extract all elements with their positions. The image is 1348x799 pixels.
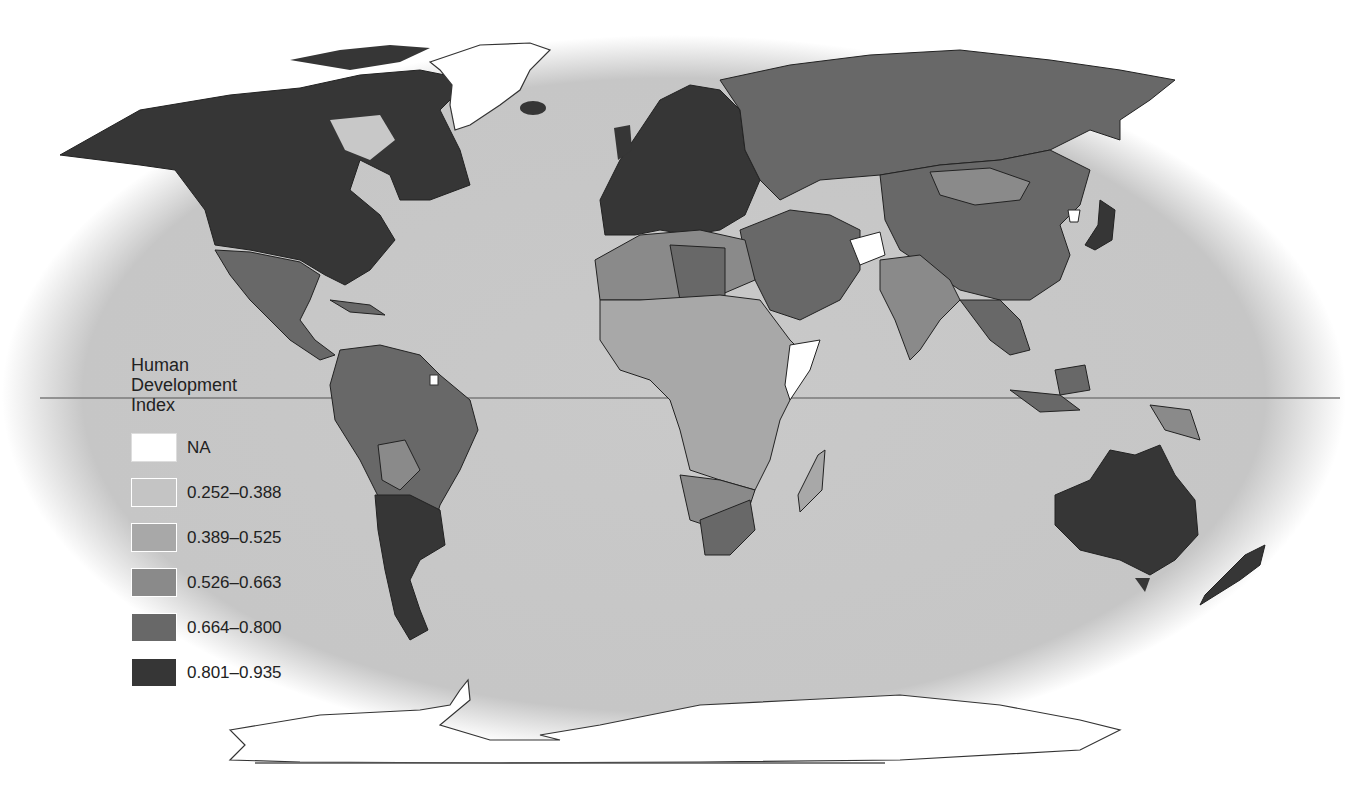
region-french-guiana[interactable]	[430, 375, 438, 385]
legend-swatch	[131, 568, 177, 597]
legend-label: 0.664–0.800	[187, 618, 282, 638]
legend-title: Human Development Index	[131, 355, 331, 415]
region-libya[interactable]	[670, 245, 725, 300]
legend-label: 0.389–0.525	[187, 528, 282, 548]
legend-item-1: 0.252–0.388	[131, 478, 331, 507]
legend-label: NA	[187, 438, 211, 458]
legend-item-4: 0.664–0.800	[131, 613, 331, 642]
legend-swatch	[131, 613, 177, 642]
legend-item-3: 0.526–0.663	[131, 568, 331, 597]
legend-swatch	[131, 433, 177, 462]
legend-title-line: Index	[131, 395, 331, 415]
legend-label: 0.526–0.663	[187, 573, 282, 593]
legend-swatch	[131, 658, 177, 687]
legend-item-2: 0.389–0.525	[131, 523, 331, 552]
legend-swatch	[131, 478, 177, 507]
legend-label: 0.252–0.388	[187, 483, 282, 503]
legend-swatch	[131, 523, 177, 552]
legend-item-na: NA	[131, 433, 331, 462]
legend-title-line: Human	[131, 355, 331, 375]
legend-item-5: 0.801–0.935	[131, 658, 331, 687]
legend: Human Development Index NA 0.252–0.388 0…	[131, 355, 331, 703]
legend-label: 0.801–0.935	[187, 663, 282, 683]
legend-title-line: Development	[131, 375, 331, 395]
region-korea-north[interactable]	[1068, 210, 1080, 222]
